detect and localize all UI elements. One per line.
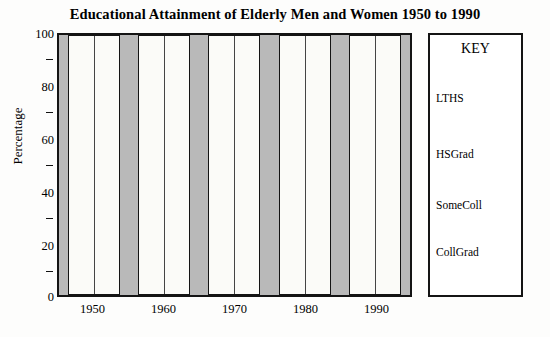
legend-title: KEY (430, 41, 521, 57)
bars-container (59, 35, 410, 295)
y-tick-label-100: 100 (20, 28, 54, 41)
plot-area (57, 33, 412, 297)
y-minor-tick-10 (46, 271, 53, 272)
chart-title: Educational Attainment of Elderly Men an… (0, 6, 550, 23)
x-tick-label-1960: 1960 (138, 302, 190, 322)
bar-1950-women (94, 36, 119, 294)
bar-1950-men (69, 36, 94, 294)
bar-1980-women (305, 36, 330, 294)
legend-item-collgrad: CollGrad (436, 246, 479, 258)
y-tick-label-0: 0 (20, 291, 54, 304)
bar-1990-women (375, 36, 400, 294)
bar-group-1990 (349, 35, 401, 295)
legend-item-hsgrad: HSGrad (436, 148, 474, 160)
bar-1960-women (164, 36, 189, 294)
bar-1970-women (234, 36, 259, 294)
bar-group-1960 (138, 35, 190, 295)
x-tick-label-1990: 1990 (351, 302, 403, 322)
bar-group-1950 (68, 35, 120, 295)
x-tick-label-1980: 1980 (280, 302, 332, 322)
bar-group-1980 (279, 35, 331, 295)
y-axis-tick-labels: 100 80 60 40 20 0 (16, 0, 54, 337)
chart-figure: Educational Attainment of Elderly Men an… (0, 0, 550, 337)
bar-1970-men (209, 36, 234, 294)
y-minor-tick-50 (46, 165, 53, 166)
y-tick-label-80: 80 (20, 81, 54, 94)
x-tick-label-1950: 1950 (67, 302, 119, 322)
x-axis-tick-labels: 1950 1960 1970 1980 1990 (57, 302, 412, 322)
bar-1960-men (139, 36, 164, 294)
y-tick-label-20: 20 (20, 240, 54, 253)
x-tick-label-1970: 1970 (209, 302, 261, 322)
bar-group-1970 (208, 35, 260, 295)
y-minor-tick-30 (46, 218, 53, 219)
bar-1980-men (280, 36, 305, 294)
y-minor-tick-70 (46, 112, 53, 113)
legend-item-lths: LTHS (436, 92, 464, 104)
y-tick-label-40: 40 (20, 187, 54, 200)
y-minor-tick-90 (46, 59, 53, 60)
y-tick-label-60: 60 (20, 134, 54, 147)
legend-item-somecoll: SomeColl (436, 199, 482, 211)
legend-key-box: KEY LTHS HSGrad SomeColl CollGrad (428, 33, 523, 297)
bar-1990-men (350, 36, 375, 294)
